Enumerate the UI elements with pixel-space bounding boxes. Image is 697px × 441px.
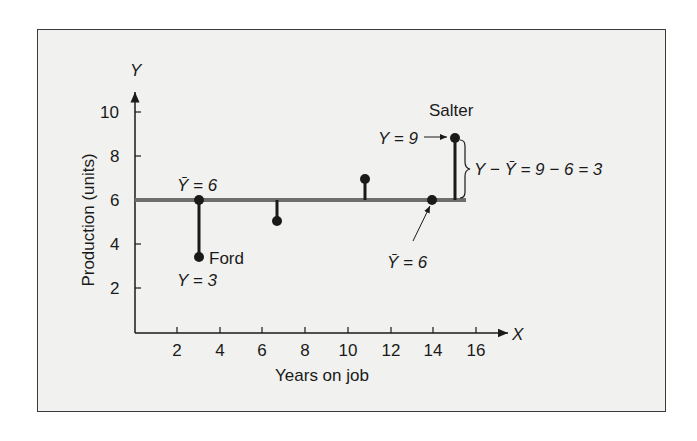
y-tick-label: 4 [110,235,119,254]
deviation-stems [199,138,455,257]
salter-name-label: Salter [429,101,474,120]
x-tick-label: 6 [257,341,266,360]
y-tick-label: 6 [110,191,119,210]
x-tick-label: 10 [339,341,358,360]
data-point [272,216,282,226]
data-point [360,174,370,184]
deviation-brace-icon [460,140,470,198]
y-axis-symbol: Y [130,61,143,80]
x-axis-label: Years on job [275,366,369,385]
ford-name-label: Ford [209,249,244,268]
data-point-ford-mean [194,195,204,205]
salter-value-annotation: Y = 9 [378,129,418,148]
y-tick-label: 8 [110,147,119,166]
x-axis-symbol: X [511,325,524,344]
x-ticks [177,327,476,333]
y-tick-label: 10 [100,103,119,122]
x-tick-label: 14 [424,341,443,360]
ford-mean-annotation: Ȳ = 6 [177,176,218,195]
data-point-ford [194,252,204,262]
x-tick-label: 16 [467,341,486,360]
x-tick-label: 12 [382,341,401,360]
ford-value-annotation: Y = 3 [177,271,217,290]
data-point [427,195,437,205]
y-tick-label: 2 [110,279,119,298]
x-tick-label: 4 [215,341,224,360]
salter-deviation-annotation: Y − Ȳ = 9 − 6 = 3 [474,160,603,179]
mean-pointer-arrow [413,206,430,241]
y-axis-label: Production (units) [79,153,98,286]
x-tick-label: 8 [300,341,309,360]
chart-svg: Y X 10 8 6 4 2 2 4 6 8 10 12 14 16 Years… [0,0,697,441]
data-point-salter [450,133,460,143]
mean-pointer-annotation: Ȳ = 6 [387,253,428,272]
x-tick-label: 2 [172,341,181,360]
